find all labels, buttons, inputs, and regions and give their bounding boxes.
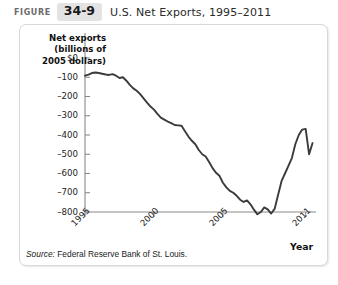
y-tick-label: –300 (34, 111, 78, 120)
figure-title: U.S. Net Exports, 1995–2011 (110, 6, 271, 19)
y-tick-label: –800 (34, 208, 78, 217)
y-tick-label: –700 (34, 188, 78, 197)
y-tick-label: –600 (34, 169, 78, 178)
figure-number-badge: 34-9 (57, 3, 102, 20)
source-note: Source: Federal Reserve Bank of St. Loui… (26, 249, 187, 259)
figure-word-label: FIGURE (14, 8, 51, 17)
net-exports-line (85, 72, 313, 214)
source-label: Source: (26, 249, 55, 259)
y-tick-label: $0 (34, 54, 78, 63)
y-tick-label: –100 (34, 73, 78, 82)
figure-header: FIGURE 34-9 U.S. Net Exports, 1995–2011 (0, 0, 338, 24)
y-axis-title-line-1: Net exports (22, 33, 106, 44)
y-tick-label: –200 (34, 92, 78, 101)
y-tick-label: –400 (34, 131, 78, 140)
source-text: Federal Reserve Bank of St. Louis. (55, 249, 187, 259)
y-tick-label: –500 (34, 150, 78, 159)
plot-area: Net exports (billions of 2005 dollars) $… (20, 25, 327, 265)
axis-tick-marks (85, 58, 306, 217)
chart-panel: Net exports (billions of 2005 dollars) $… (19, 24, 328, 266)
x-axis-title: Year (290, 241, 313, 252)
